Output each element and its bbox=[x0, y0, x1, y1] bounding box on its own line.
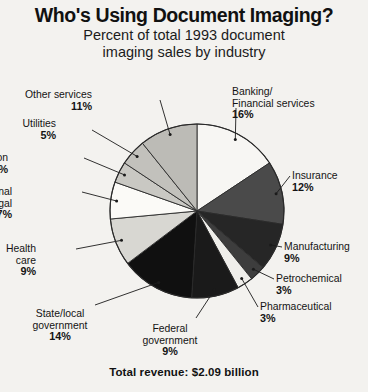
pie-slice-value: 9% bbox=[120, 346, 220, 358]
leader-dot bbox=[169, 133, 172, 136]
leader-dot bbox=[234, 138, 237, 141]
pie-slice-value: 5% bbox=[23, 130, 57, 142]
pie-slice-label-text: Health bbox=[6, 243, 36, 255]
leader-line bbox=[76, 240, 122, 249]
pie-slice-label-text: Utilities bbox=[23, 118, 57, 130]
leader-dot bbox=[240, 277, 243, 280]
pie-slice-label-text: Professional bbox=[0, 186, 12, 198]
pie-slice-label: Federalgovernment9% bbox=[120, 323, 220, 358]
pie-slice-value: 9% bbox=[6, 266, 36, 278]
chart-page: Who's Using Document Imaging? Percent of… bbox=[0, 0, 368, 392]
pie-slice-label-text: Pharmaceutical bbox=[260, 301, 332, 313]
pie-slice-label: State/localgovernment14% bbox=[10, 308, 110, 343]
pie-slice-label-text: Other services bbox=[25, 89, 92, 101]
pie-slice-label: Petrochemical3% bbox=[276, 273, 342, 296]
pie-slice-label-text: Transportation bbox=[0, 152, 8, 164]
pie-slice-value: 7% bbox=[0, 209, 12, 221]
pie-slice-label: Manufacturing9% bbox=[284, 241, 350, 264]
pie-slice-value: 16% bbox=[232, 109, 315, 121]
pie-slice-label-text: Petrochemical bbox=[276, 273, 342, 285]
leader-dot bbox=[123, 173, 126, 176]
pie-slice-label: Insurance12% bbox=[292, 170, 338, 193]
pie-slice-label: Pharmaceutical3% bbox=[260, 301, 332, 324]
leader-dot bbox=[115, 200, 118, 203]
leader-dot bbox=[275, 192, 278, 195]
pie-slice-label: Professionalservices/legal7% bbox=[0, 186, 12, 221]
pie-slice-value: 9% bbox=[284, 253, 350, 265]
pie-slice-label-text: Insurance bbox=[292, 170, 338, 182]
pie-slice-value: 3% bbox=[276, 285, 342, 297]
leader-dot bbox=[269, 243, 272, 246]
pie-slice-value: 4% bbox=[0, 164, 8, 176]
pie-slice-label-text: Manufacturing bbox=[284, 241, 350, 253]
pie-slice-label-text: State/local bbox=[10, 308, 110, 320]
leader-dot bbox=[136, 155, 139, 158]
pie-slice-label: Healthcare9% bbox=[6, 243, 36, 278]
pie-slice-value: 11% bbox=[25, 101, 92, 113]
leader-dot bbox=[252, 268, 255, 271]
pie-slice-value: 3% bbox=[260, 313, 332, 325]
leader-line bbox=[92, 130, 137, 156]
pie-slice-value: 14% bbox=[10, 331, 110, 343]
leader-dot bbox=[213, 289, 216, 292]
pie-slice-label: Banking/Financial services16% bbox=[232, 86, 315, 121]
pie-slice-label: Other services11% bbox=[25, 89, 92, 112]
leader-dot bbox=[157, 281, 160, 284]
leader-line bbox=[84, 158, 125, 175]
leader-dot bbox=[120, 239, 123, 242]
pie-slice-label-text: Federal bbox=[120, 323, 220, 335]
leader-line bbox=[242, 279, 258, 308]
pie-slice-label: Utilities5% bbox=[23, 118, 57, 141]
leader-line bbox=[95, 282, 159, 305]
pie-slice-label: Transportation4% bbox=[0, 152, 8, 175]
pie-slice-value: 12% bbox=[292, 182, 338, 194]
total-revenue-note: Total revenue: $2.09 billion bbox=[0, 366, 368, 378]
pie-slice-label-text: Banking/ bbox=[232, 86, 315, 98]
leader-line bbox=[160, 100, 170, 135]
